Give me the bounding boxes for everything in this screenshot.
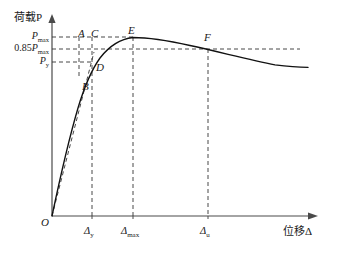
y-tick-label-p-085max: 0.85Pmax — [0, 43, 49, 56]
y-tick-prefix-p-085max: 0.85 — [14, 42, 32, 53]
secant-line — [52, 52, 94, 216]
x-tick-sub-delta-y: y — [90, 231, 94, 239]
y-tick-sub-p-max: max — [38, 36, 49, 43]
x-tick-sub-delta-max: max — [127, 231, 139, 239]
point-label-d: D — [96, 62, 104, 73]
x-tick-sub-delta-u: u — [206, 231, 210, 239]
point-label-a: A — [78, 28, 85, 39]
point-label-f: F — [204, 32, 211, 43]
horizontal-level-lines — [52, 37, 300, 62]
y-tick-label-p-yield: Py — [2, 56, 49, 69]
point-label-b: B — [82, 81, 89, 92]
x-tick-label-delta-max: Δmax — [121, 226, 139, 239]
point-label-e: E — [128, 25, 135, 36]
y-tick-sub-p-yield: y — [46, 61, 49, 68]
y-tick-sub-p-085max: max — [38, 48, 49, 55]
y-axis-title: 荷载P — [14, 12, 42, 23]
point-label-c: C — [91, 28, 98, 39]
x-axis-title: 位移Δ — [283, 226, 312, 237]
x-axis-title-text: 位移Δ — [283, 225, 312, 237]
y-axis-title-text: 荷载P — [14, 11, 42, 23]
origin-label: O — [41, 217, 49, 228]
x-tick-label-delta-y: Δy — [84, 226, 94, 239]
chart-canvas — [0, 0, 338, 253]
load-displacement-figure: 荷载P 位移Δ O Pmax 0.85Pmax Py Δy Δmax Δu A … — [0, 0, 338, 253]
y-axis — [48, 14, 55, 216]
x-tick-label-delta-u: Δu — [200, 226, 210, 239]
origin-label-text: O — [41, 216, 49, 228]
